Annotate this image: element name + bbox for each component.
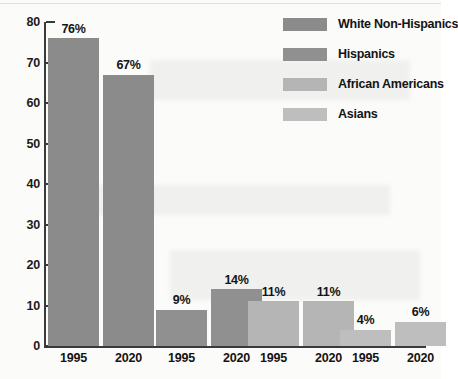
legend-item: White Non-Hispanics bbox=[283, 13, 441, 36]
legend-swatch bbox=[283, 48, 327, 61]
y-axis-tick-label: 80 bbox=[26, 16, 40, 29]
legend-label: Hispanics bbox=[338, 48, 395, 61]
bar-value-label: 11% bbox=[262, 286, 285, 299]
x-axis-category-label: 1995 bbox=[60, 352, 87, 365]
x-axis-category-label: 2020 bbox=[407, 352, 434, 365]
bar: 6%2020 bbox=[395, 322, 446, 346]
bar: 4%1995 bbox=[340, 330, 391, 346]
bar: 9%1995 bbox=[156, 310, 207, 346]
legend-item: Asians bbox=[283, 103, 441, 126]
y-axis-tick-label: 30 bbox=[26, 218, 40, 231]
bar-value-label: 76% bbox=[61, 23, 85, 36]
legend-swatch bbox=[283, 108, 327, 121]
bar-value-label: 9% bbox=[173, 294, 190, 307]
y-axis-tick bbox=[46, 21, 55, 23]
y-axis-tick-label: 40 bbox=[26, 178, 40, 191]
bar: 11%1995 bbox=[248, 301, 299, 346]
x-axis-category-label: 2020 bbox=[223, 352, 250, 365]
bar-value-label: 4% bbox=[357, 314, 374, 327]
y-axis-tick-label: 20 bbox=[26, 259, 40, 272]
bar-value-label: 11% bbox=[317, 286, 340, 299]
x-axis-category-label: 1995 bbox=[352, 352, 379, 365]
legend-label: Asians bbox=[338, 108, 378, 121]
y-axis-tick-label: 50 bbox=[26, 137, 40, 150]
y-axis-line bbox=[44, 22, 46, 348]
legend-label: African Americans bbox=[338, 78, 444, 91]
bar: 67%2020 bbox=[103, 75, 154, 346]
y-axis-tick-label: 10 bbox=[26, 299, 40, 312]
x-axis-line bbox=[44, 346, 426, 348]
legend-swatch bbox=[283, 78, 327, 91]
x-axis-category-label: 1995 bbox=[168, 352, 195, 365]
bar: 76%1995 bbox=[48, 38, 99, 346]
chart-legend: White Non-HispanicsHispanicsAfrican Amer… bbox=[283, 13, 441, 133]
x-axis-category-label: 1995 bbox=[260, 352, 287, 365]
bar-value-label: 14% bbox=[224, 274, 248, 287]
y-axis-tick-label: 0 bbox=[33, 340, 40, 353]
x-axis-category-label: 2020 bbox=[315, 352, 342, 365]
legend-item: African Americans bbox=[283, 73, 441, 96]
y-axis-tick-label: 60 bbox=[26, 97, 40, 110]
legend-swatch bbox=[283, 18, 327, 31]
y-axis-tick-label: 70 bbox=[26, 56, 40, 69]
x-axis-category-label: 2020 bbox=[115, 352, 142, 365]
scan-artifact-line bbox=[0, 3, 441, 4]
legend-label: White Non-Hispanics bbox=[338, 18, 458, 31]
bar-value-label: 6% bbox=[412, 306, 429, 319]
legend-item: Hispanics bbox=[283, 43, 441, 66]
bar-value-label: 67% bbox=[116, 59, 140, 72]
